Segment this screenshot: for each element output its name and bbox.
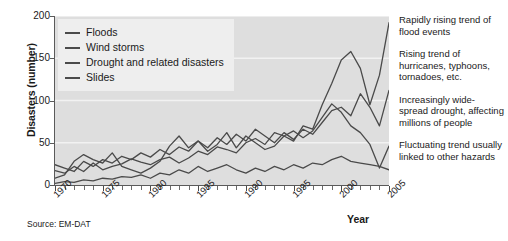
- x-tick-mark-minor: [360, 186, 361, 190]
- legend-item[interactable]: Slides: [65, 70, 224, 85]
- y-tick-label: 150: [24, 53, 50, 63]
- x-axis-title: Year: [347, 213, 369, 225]
- series-line: [55, 90, 389, 171]
- x-tick-mark-minor: [84, 186, 85, 190]
- x-tick-mark-minor: [274, 186, 275, 190]
- y-tick-mark: [50, 185, 55, 186]
- legend-line-swatch: [65, 47, 80, 49]
- x-tick-mark-minor: [141, 186, 142, 190]
- annotation-text: Rising trend of hurricanes, typhoons, to…: [399, 48, 504, 83]
- x-tick-mark-minor: [322, 186, 323, 190]
- legend-item-label: Wind storms: [86, 42, 144, 53]
- legend-item[interactable]: Floods: [65, 25, 224, 40]
- x-tick-mark-minor: [217, 186, 218, 190]
- x-tick-mark-minor: [332, 186, 333, 190]
- x-tick-mark-minor: [93, 186, 94, 190]
- x-tick-mark-minor: [179, 186, 180, 190]
- x-tick-mark-minor: [313, 186, 314, 190]
- disasters-line-chart-figure: Disasters (number) 050100150200 19701975…: [0, 0, 508, 241]
- y-tick-label: 50: [24, 138, 50, 148]
- x-tick-mark-minor: [265, 186, 266, 190]
- y-tick-label: 0: [24, 180, 50, 190]
- legend-item[interactable]: Wind storms: [65, 40, 224, 55]
- annotation-text: Increasingly wide-spread drought, affect…: [399, 94, 504, 129]
- legend-line-swatch: [65, 77, 80, 79]
- legend-line-swatch: [65, 32, 80, 34]
- source-note: Source: EM-DAT: [27, 219, 91, 229]
- x-tick-mark-minor: [74, 186, 75, 190]
- legend-line-swatch: [65, 62, 80, 64]
- y-axis-tick-labels: 050100150200: [24, 0, 50, 241]
- x-tick-mark-minor: [227, 186, 228, 190]
- chart-annotations: Rapidly rising trend of flood eventsRisi…: [399, 14, 504, 173]
- x-tick-mark-minor: [189, 186, 190, 190]
- legend-item-label: Drought and related disasters: [86, 57, 224, 68]
- x-tick-mark-minor: [170, 186, 171, 190]
- x-tick-mark-minor: [370, 186, 371, 190]
- y-tick-mark: [50, 143, 55, 144]
- y-tick-mark: [50, 16, 55, 17]
- chart-legend: FloodsWind stormsDrought and related dis…: [58, 19, 234, 91]
- x-tick-mark-minor: [131, 186, 132, 190]
- x-tick-mark-minor: [379, 186, 380, 190]
- x-tick-mark-minor: [122, 186, 123, 190]
- y-tick-mark: [50, 101, 55, 102]
- y-tick-label: 200: [24, 11, 50, 21]
- legend-item-label: Floods: [86, 27, 118, 38]
- annotation-text: Fluctuating trend usually linked to othe…: [399, 139, 504, 162]
- x-tick-mark-minor: [236, 186, 237, 190]
- annotation-text: Rapidly rising trend of flood events: [399, 14, 504, 37]
- x-tick-mark-minor: [284, 186, 285, 190]
- legend-item-label: Slides: [86, 72, 115, 83]
- y-tick-label: 100: [24, 96, 50, 106]
- legend-item[interactable]: Drought and related disasters: [65, 55, 224, 70]
- y-tick-mark: [50, 58, 55, 59]
